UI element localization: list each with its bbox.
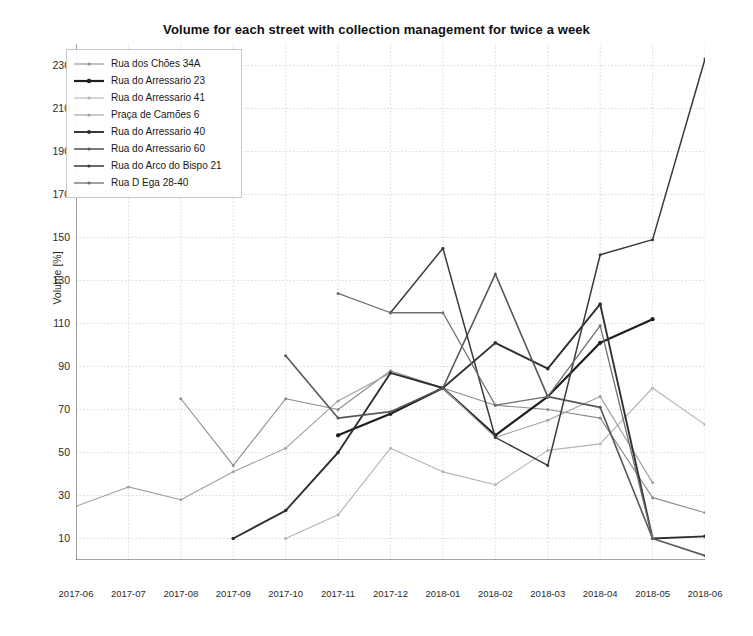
series-line: [233, 304, 705, 538]
legend-item[interactable]: Praça de Camões 6: [73, 106, 235, 123]
data-point: [441, 311, 444, 314]
legend-item[interactable]: Rua D Ega 28-40: [73, 174, 235, 191]
legend-line-icon: [73, 108, 105, 122]
legend-item[interactable]: Rua dos Chões 34A: [73, 55, 235, 72]
legend-label: Rua do Arressario 60: [111, 143, 205, 154]
data-point: [651, 537, 654, 540]
page-title: Volume for each street with collection m…: [0, 22, 753, 37]
x-tick-label: 2017-12: [363, 588, 419, 599]
data-point: [179, 397, 182, 400]
data-point: [441, 247, 444, 250]
legend-label: Praça de Camões 6: [111, 109, 199, 120]
legend-item[interactable]: Rua do Arco do Bispo 21: [73, 157, 235, 174]
data-point: [599, 442, 602, 445]
data-point: [703, 535, 705, 539]
x-tick-label: 2017-10: [258, 588, 314, 599]
x-tick-label: 2018-01: [415, 588, 471, 599]
data-point: [651, 496, 654, 499]
y-tick-label: 150: [30, 231, 70, 243]
data-point: [494, 273, 497, 276]
series-3: [76, 371, 654, 507]
y-tick-label: 230: [30, 59, 70, 71]
legend-label: Rua do Arressario 41: [111, 92, 205, 103]
legend-line-icon: [73, 159, 105, 173]
x-tick-label: 2017-08: [153, 588, 209, 599]
x-tick-label: 2018-06: [677, 588, 733, 599]
data-point: [337, 399, 340, 402]
legend-label: Rua D Ega 28-40: [111, 177, 188, 188]
data-point: [546, 419, 549, 422]
data-point: [546, 464, 549, 467]
legend-label: Rua do Arco do Bispo 21: [111, 160, 222, 171]
series-2: [284, 387, 705, 541]
data-point: [336, 451, 340, 455]
data-point: [232, 464, 235, 467]
x-tick-label: 2018-04: [572, 588, 628, 599]
legend-item[interactable]: Rua do Arressario 41: [73, 89, 235, 106]
x-tick-label: 2017-07: [100, 588, 156, 599]
data-point: [599, 324, 602, 327]
data-point: [337, 292, 340, 295]
data-point: [599, 406, 602, 409]
data-point: [441, 386, 444, 389]
data-point: [284, 354, 287, 357]
chart-figure: Volume for each street with collection m…: [0, 0, 753, 636]
data-point: [494, 404, 497, 407]
data-point: [336, 433, 340, 437]
legend-item[interactable]: Rua do Arressario 60: [73, 140, 235, 157]
x-tick-label: 2017-06: [48, 588, 104, 599]
data-point: [598, 302, 602, 306]
data-point: [599, 395, 602, 398]
data-point: [337, 513, 340, 516]
data-point: [337, 417, 340, 420]
data-point: [599, 253, 602, 256]
legend-line-icon: [73, 74, 105, 88]
y-tick-label: 30: [30, 489, 70, 501]
data-point: [389, 371, 393, 375]
series-6: [389, 58, 705, 467]
x-tick-label: 2017-11: [310, 588, 366, 599]
data-point: [494, 341, 498, 345]
data-point: [284, 447, 287, 450]
legend-item[interactable]: Rua do Arressario 40: [73, 123, 235, 140]
data-point: [494, 483, 497, 486]
data-point: [651, 481, 654, 484]
x-tick-label: 2018-03: [520, 588, 576, 599]
data-point: [284, 537, 287, 540]
legend-line-icon: [73, 142, 105, 156]
data-point: [599, 417, 602, 420]
data-point: [179, 498, 182, 501]
legend-line-icon: [73, 91, 105, 105]
legend-label: Rua do Arressario 40: [111, 126, 205, 137]
y-tick-label: 190: [30, 145, 70, 157]
y-tick-label: 70: [30, 403, 70, 415]
data-point: [231, 537, 235, 541]
data-point: [546, 408, 549, 411]
data-point: [232, 470, 235, 473]
data-point: [546, 449, 549, 452]
data-point: [651, 387, 654, 390]
series-line: [286, 388, 705, 539]
series-0: [179, 369, 705, 514]
data-point: [389, 447, 392, 450]
data-point: [127, 485, 130, 488]
x-tick-label: 2018-05: [625, 588, 681, 599]
data-point: [650, 317, 654, 321]
legend-item[interactable]: Rua do Arressario 23: [73, 72, 235, 89]
data-point: [284, 397, 287, 400]
y-tick-label: 130: [30, 274, 70, 286]
y-tick-label: 90: [30, 360, 70, 372]
x-tick-label: 2017-09: [205, 588, 261, 599]
y-tick-label: 110: [30, 317, 70, 329]
data-point: [651, 238, 654, 241]
y-tick-label: 170: [30, 188, 70, 200]
data-point: [389, 311, 392, 314]
data-point: [494, 436, 497, 439]
legend-line-icon: [73, 57, 105, 71]
data-point: [598, 341, 602, 345]
data-point: [284, 509, 288, 513]
legend-line-icon: [73, 125, 105, 139]
y-tick-label: 10: [30, 532, 70, 544]
series-line: [181, 371, 705, 513]
data-point: [389, 410, 392, 413]
